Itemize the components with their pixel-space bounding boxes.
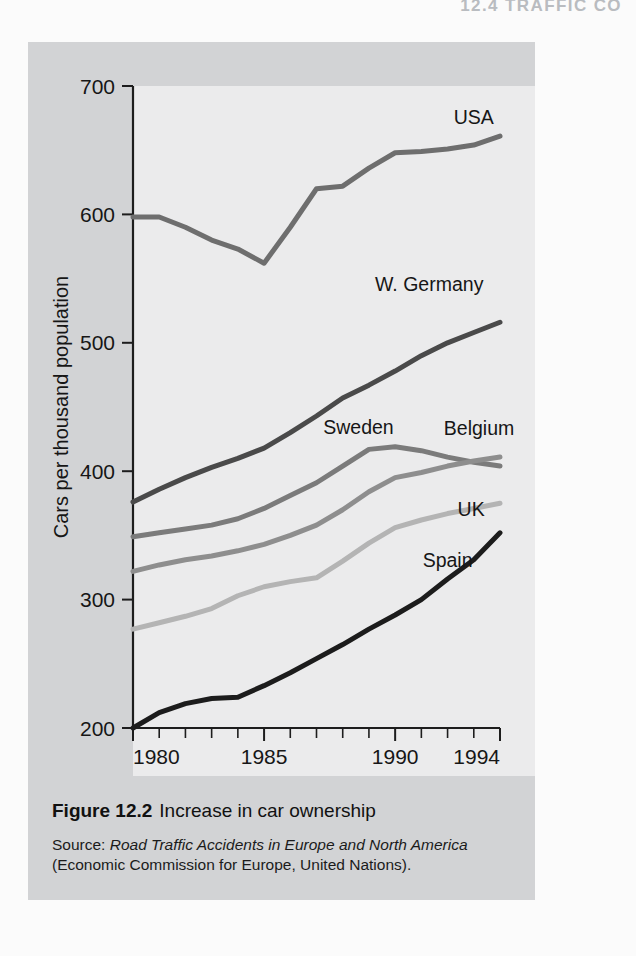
figure-panel: 2003004005006007001980198519901994Cars p…: [28, 42, 535, 900]
series-label-spain: Spain: [423, 549, 473, 571]
series-label-uk: UK: [458, 498, 485, 520]
source-line-1: Source: Road Traffic Accidents in Europe…: [52, 835, 502, 855]
y-tick-label: 600: [80, 203, 115, 226]
figure-title-text: Increase in car ownership: [159, 800, 376, 821]
y-tick-label: 500: [80, 331, 115, 354]
series-line-usa: [133, 136, 500, 263]
running-head: 12.4 TRAFFIC CO: [460, 0, 622, 16]
figure-caption: Figure 12.2Increase in car ownership Sou…: [52, 800, 502, 876]
series-line-w-germany: [133, 322, 500, 502]
y-tick-label: 400: [80, 460, 115, 483]
y-tick-label: 200: [80, 717, 115, 740]
y-tick-label: 700: [80, 75, 115, 98]
source-line-2: (Economic Commission for Europe, United …: [52, 855, 502, 875]
y-axis-title: Cars per thousand population: [50, 276, 72, 538]
y-tick-label: 300: [80, 588, 115, 611]
figure-page: 12.4 TRAFFIC CO 200300400500600700198019…: [0, 0, 636, 956]
line-chart: 2003004005006007001980198519901994Cars p…: [28, 42, 535, 812]
figure-title: Figure 12.2Increase in car ownership: [52, 800, 502, 822]
series-label-usa: USA: [454, 106, 494, 128]
source-title: Road Traffic Accidents in Europe and Nor…: [110, 836, 468, 853]
series-label-w-germany: W. Germany: [375, 273, 484, 295]
x-tick-label: 1994: [453, 745, 500, 768]
x-tick-label: 1990: [372, 745, 419, 768]
figure-number: Figure 12.2: [52, 800, 152, 821]
series-label-sweden: Sweden: [323, 416, 393, 438]
source-prefix: Source:: [52, 836, 105, 853]
series-label-belgium: Belgium: [444, 417, 514, 439]
x-tick-label: 1980: [133, 745, 180, 768]
x-tick-label: 1985: [241, 745, 288, 768]
